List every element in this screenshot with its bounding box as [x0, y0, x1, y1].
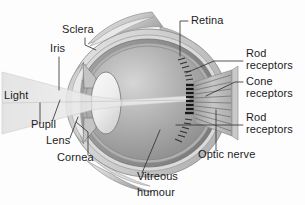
- label-rod-receptors-upper-line1: Rod: [246, 47, 266, 59]
- label-iris: Iris: [50, 42, 65, 54]
- label-rod-receptors-lower-line2: receptors: [246, 123, 293, 135]
- eye-diagram-svg: Sclera Iris Light Pupil Lens Cornea Reti…: [0, 0, 305, 205]
- label-light: Light: [4, 89, 28, 101]
- label-rod-receptors-upper-line2: receptors: [246, 59, 293, 71]
- label-cone-receptors-line2: receptors: [246, 87, 293, 99]
- label-lens: Lens: [46, 134, 71, 146]
- label-optic-nerve: Optic nerve: [198, 148, 255, 160]
- label-pupil: Pupil: [31, 118, 56, 130]
- label-vitreous-humour-line2: humour: [137, 186, 175, 198]
- label-cornea: Cornea: [57, 151, 94, 163]
- label-retina: Retina: [191, 14, 224, 26]
- label-vitreous-humour-line1: Vitreous: [137, 170, 178, 182]
- eye-anatomy-diagram: Sclera Iris Light Pupil Lens Cornea Reti…: [0, 0, 305, 205]
- label-sclera: Sclera: [62, 23, 95, 35]
- label-rod-receptors-lower-line1: Rod: [246, 111, 266, 123]
- label-cone-receptors-line1: Cone: [246, 75, 273, 87]
